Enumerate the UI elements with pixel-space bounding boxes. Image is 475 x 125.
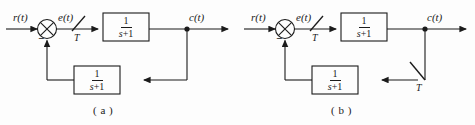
forward-tf-numerator-b: 1	[359, 16, 370, 28]
sampler-period-label-a: T	[74, 33, 80, 43]
summer-negative-sign-b: −	[276, 33, 282, 44]
forward-tf-den-const-a: 1	[128, 28, 133, 39]
forward-tf-den-const-b: 1	[366, 28, 371, 39]
forward-tf-denominator-a: s+1	[116, 28, 137, 39]
feedback-tf-den-const-a: 1	[99, 81, 104, 92]
block-diagram-b: 1 s+1 1 s+1 r(t) e(t) T − c(t) T ( b )	[238, 0, 475, 125]
summer-negative-sign-a: −	[38, 33, 44, 44]
feedback-transfer-function-b: 1 s+1	[312, 66, 358, 94]
feedback-tf-numerator-a: 1	[92, 69, 103, 81]
output-signal-label-b: c(t)	[427, 12, 442, 23]
forward-transfer-function-b: 1 s+1	[341, 13, 387, 41]
caption-a: ( a )	[93, 104, 113, 116]
sampler-switch-feedback-b	[410, 62, 425, 80]
forward-transfer-function-a: 1 s+1	[103, 13, 149, 41]
caption-b: ( b )	[331, 104, 352, 116]
sampler-period-label-forward-b: T	[312, 33, 318, 43]
feedback-transfer-function-a: 1 s+1	[74, 66, 120, 94]
forward-tf-denominator-b: s+1	[354, 28, 375, 39]
forward-tf-numerator-a: 1	[121, 16, 132, 28]
feedback-tf-den-const-b: 1	[337, 81, 342, 92]
input-signal-label-a: r(t)	[13, 12, 28, 23]
output-signal-label-a: c(t)	[189, 12, 204, 23]
figure-root: 1 s+1 1 s+1 r(t) e(t) T − c(t) ( a )	[0, 0, 475, 125]
block-diagram-a: 1 s+1 1 s+1 r(t) e(t) T − c(t) ( a )	[0, 0, 237, 125]
sampler-period-label-feedback-b: T	[416, 83, 422, 93]
feedback-tf-denominator-a: s+1	[87, 81, 108, 92]
feedback-tf-numerator-b: 1	[330, 69, 341, 81]
input-signal-label-b: r(t)	[251, 12, 266, 23]
feedback-tf-denominator-b: s+1	[325, 81, 346, 92]
error-signal-label-a: e(t)	[58, 12, 73, 23]
error-signal-label-b: e(t)	[296, 12, 311, 23]
